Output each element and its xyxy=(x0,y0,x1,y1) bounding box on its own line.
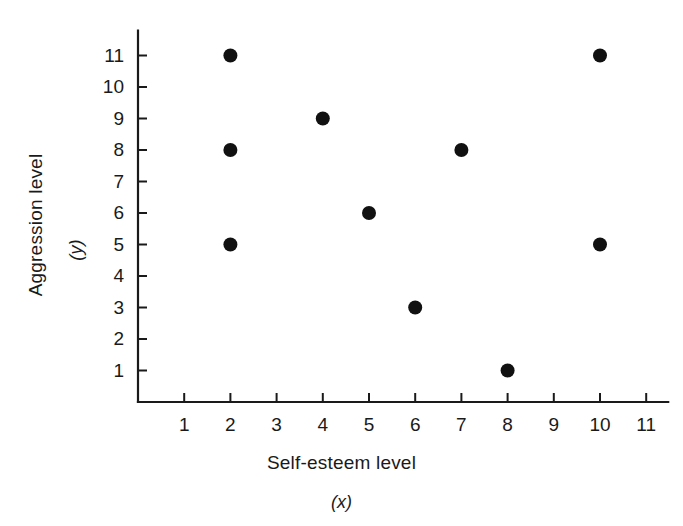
axes xyxy=(138,31,668,403)
data-point xyxy=(223,49,237,63)
data-point xyxy=(223,238,237,252)
data-point xyxy=(316,112,330,126)
data-point xyxy=(408,301,422,315)
plot-area xyxy=(0,0,683,526)
x-axis-label: Self-esteem level xyxy=(0,452,683,474)
data-point xyxy=(593,238,607,252)
data-point xyxy=(593,49,607,63)
axis-ticks xyxy=(138,56,646,403)
data-point xyxy=(223,143,237,157)
x-axis-symbol: (x) xyxy=(0,492,683,513)
data-point xyxy=(454,143,468,157)
data-point xyxy=(501,364,515,378)
data-points xyxy=(223,49,607,378)
scatter-plot-figure: Aggression level (y) 1234567891011 12345… xyxy=(0,0,683,526)
data-point xyxy=(362,206,376,220)
